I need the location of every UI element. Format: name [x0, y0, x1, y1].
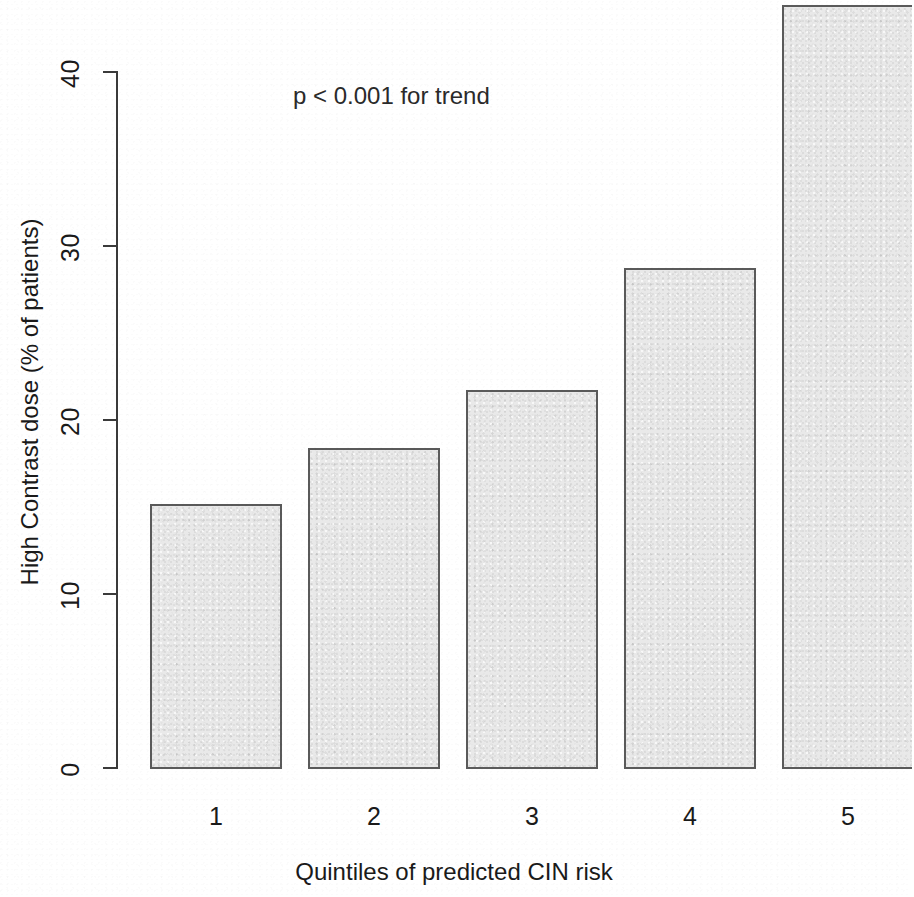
y-axis-tick-40 [103, 71, 116, 73]
y-axis-title: High Contrast dose (% of patients) [16, 152, 44, 652]
bar-quintile-2 [308, 448, 440, 769]
x-axis-tick-label-2: 2 [308, 802, 440, 831]
y-axis-tick-label-30: 30 [56, 218, 85, 278]
trend-p-value-annotation: p < 0.001 for trend [293, 82, 490, 110]
bar-quintile-1 [150, 504, 282, 769]
y-axis-tick-0 [103, 767, 116, 769]
y-axis-tick-30 [103, 245, 116, 247]
y-axis-line [116, 71, 118, 769]
x-axis-tick-label-1: 1 [150, 802, 282, 831]
y-axis-tick-20 [103, 419, 116, 421]
x-axis-tick-label-4: 4 [624, 802, 756, 831]
y-axis-tick-label-0: 0 [56, 740, 85, 800]
x-axis-tick-label-5: 5 [782, 802, 914, 831]
y-axis-tick-label-20: 20 [56, 392, 85, 452]
y-axis-tick-10 [103, 593, 116, 595]
y-axis-tick-label-40: 40 [56, 44, 85, 104]
bar-quintile-4 [624, 268, 756, 769]
x-axis-title: Quintiles of predicted CIN risk [0, 858, 908, 886]
x-axis-tick-label-3: 3 [466, 802, 598, 831]
bar-quintile-3 [466, 390, 598, 769]
bar-quintile-5 [782, 5, 912, 769]
y-axis-tick-label-10: 10 [56, 566, 85, 626]
